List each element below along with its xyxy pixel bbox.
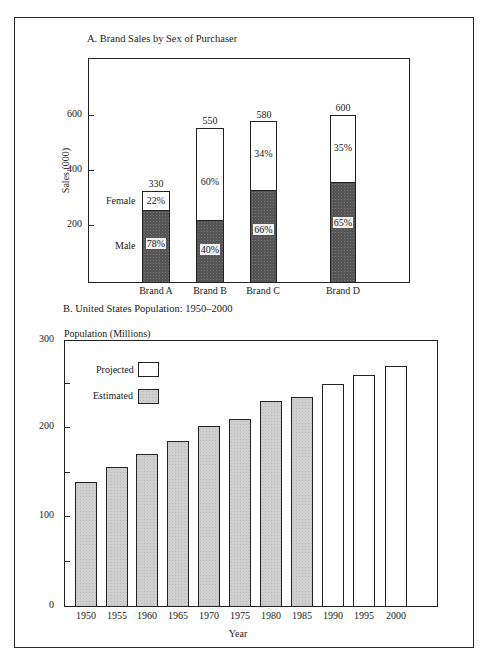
bar-1975 [229,419,251,607]
chart-b-title: B. United States Population: 1950–2000 [63,303,232,314]
bar-brand-c-total: 580 [248,109,280,120]
bar-brand-d-male-segment [330,182,356,283]
bar-brand-c-male-pct: 66% [253,224,273,235]
chart-a-tick-label-400: 400 [52,163,82,174]
bar-1980 [260,401,282,607]
bar-brand-d-male-pct: 65% [333,217,353,228]
chart-b-tick-label-100: 100 [24,509,54,520]
chart-a-tick-600 [88,115,94,116]
bar-1970 [198,426,220,607]
chart-b-tick-150 [64,472,70,473]
x-label-brand-d: Brand D [323,285,363,296]
male-annotation: Male [115,240,136,251]
x-label-brand-a: Brand A [136,285,176,296]
bar-brand-c-female-pct: 34% [250,148,277,159]
chart-b-tick-200 [64,427,70,428]
bar-1965 [167,441,189,607]
chart-a-tick-label-200: 200 [52,218,82,229]
chart-a-title: A. Brand Sales by Sex of Purchaser [87,33,237,44]
bar-1995 [353,375,375,607]
chart-b-tick-label-0: 0 [24,599,54,610]
bar-brand-a-female-pct: 22% [142,195,170,206]
legend-swatch-estimated [138,389,159,404]
x-label-2000: 2000 [376,610,416,621]
chart-a-tick-label-600: 600 [52,108,82,119]
bar-brand-b-female-pct: 60% [196,176,224,187]
chart-b-tick-50 [64,561,70,562]
bar-brand-b-female-segment [196,128,224,221]
x-label-brand-c: Brand C [243,285,283,296]
chart-b-x-axis-label: Year [218,628,258,639]
chart-a-tick-400 [88,170,94,171]
chart-b-tick-label-200: 200 [24,420,54,431]
bar-brand-a-male-pct: 78% [146,238,166,249]
legend-label-projected: Projected [96,364,134,375]
female-annotation: Female [106,195,135,206]
bar-1955 [106,467,128,607]
bar-1950 [75,482,97,607]
chart-a-tick-200 [88,225,94,226]
bar-1985 [291,397,313,607]
bar-brand-b-total: 550 [194,115,226,126]
bar-1960 [136,454,158,607]
bar-2000 [385,366,407,607]
bar-brand-d-total: 600 [327,102,359,113]
bar-brand-b-male-pct: 40% [200,244,220,255]
chart-b-tick-250 [64,383,70,384]
chart-b-tick-label-300: 300 [24,333,54,344]
x-label-brand-b: Brand B [190,285,230,296]
bar-brand-a-total: 330 [140,178,172,189]
bar-1990 [322,384,344,607]
bar-brand-c-male-segment [250,190,277,283]
bar-brand-d-female-pct: 35% [330,142,356,153]
chart-b-y-axis-label: Population (Millions) [64,328,150,339]
legend-swatch-projected [138,362,159,377]
legend-label-estimated: Estimated [93,390,133,401]
chart-a-plot-area [88,58,410,283]
chart-b-tick-100 [64,516,70,517]
